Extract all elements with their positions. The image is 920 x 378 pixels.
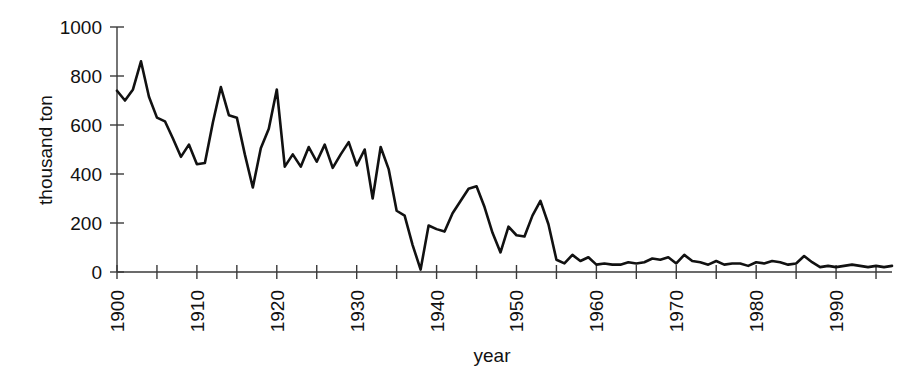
y-axis-tick-label: 400 [70,164,102,185]
tick-marks [110,27,876,279]
chart-figure: 02004006008001000 1900191019201930194019… [0,0,920,378]
y-axis-tick-label: 600 [70,115,102,136]
y-axis-tick-label: 800 [70,66,102,87]
x-axis-tick-label: 1940 [427,290,448,332]
x-axis-tick-label-group: 1900191019201930194019501960197019801990 [107,290,847,332]
y-axis-title: thousand ton [35,95,56,205]
x-axis-tick-label: 1990 [826,290,847,332]
x-axis-tick-label: 1980 [746,290,767,332]
x-axis-tick-label: 1960 [586,290,607,332]
y-axis-tick-label: 0 [91,262,102,283]
line-chart: 02004006008001000 1900191019201930194019… [0,0,920,378]
y-axis-tick-label: 200 [70,213,102,234]
x-axis-tick-label: 1910 [187,290,208,332]
x-axis-tick-label: 1920 [267,290,288,332]
data-series-line [117,61,892,269]
x-axis-tick-label: 1970 [666,290,687,332]
x-axis-tick-label: 1900 [107,290,128,332]
x-axis-title: year [474,345,512,366]
x-axis-tick-label: 1930 [347,290,368,332]
y-axis-tick-label: 1000 [60,17,102,38]
x-axis-tick-label: 1950 [506,290,527,332]
y-axis-tick-label-group: 02004006008001000 [60,17,102,283]
